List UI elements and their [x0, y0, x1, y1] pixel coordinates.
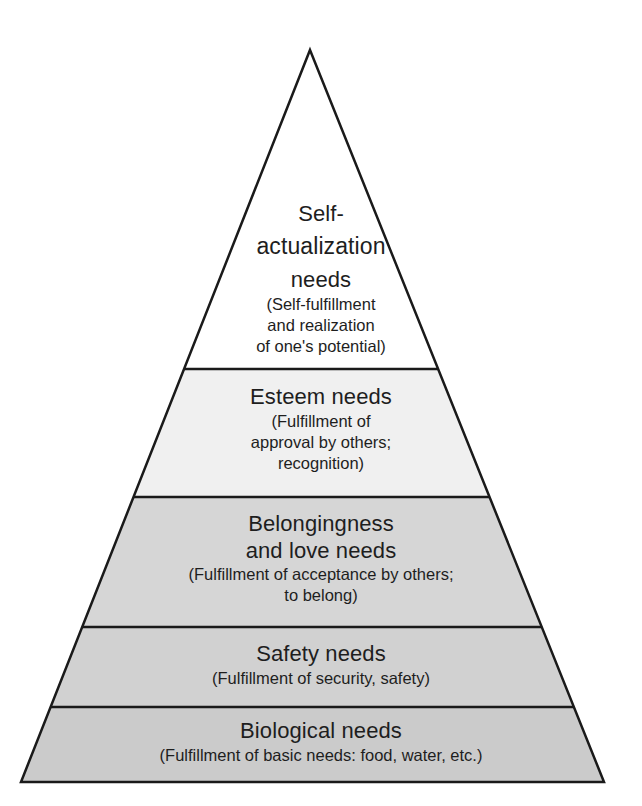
title-line: actualization — [0, 230, 642, 263]
subtitle-line: (Fulfillment of security, safety) — [0, 668, 642, 689]
level-biological: Biological needs (Fulfillment of basic n… — [0, 717, 642, 766]
level-safety: Safety needs (Fulfillment of security, s… — [0, 639, 642, 689]
subtitle-line: recognition) — [0, 453, 642, 474]
subtitle-line: (Fulfillment of — [0, 411, 642, 432]
level-subtitle: (Fulfillment of acceptance by others; to… — [0, 564, 642, 606]
level-title: Biological needs — [0, 717, 642, 745]
subtitle-line: (Self-fulfillment — [0, 294, 642, 315]
subtitle-line: (Fulfillment of acceptance by others; — [0, 564, 642, 585]
level-belongingness: Belongingness and love needs (Fulfillmen… — [0, 510, 642, 606]
subtitle-line: to belong) — [0, 585, 642, 606]
subtitle-line: approval by others; — [0, 432, 642, 453]
level-title: Safety needs — [0, 639, 642, 668]
level-subtitle: (Self-fulfillment and realization of one… — [0, 294, 642, 357]
title-line: and love needs — [0, 537, 642, 564]
title-line: Esteem needs — [0, 383, 642, 411]
level-esteem: Esteem needs (Fulfillment of approval by… — [0, 383, 642, 474]
level-self-actualization: Self- actualization needs (Self-fulfillm… — [0, 197, 642, 357]
level-title: Belongingness and love needs — [0, 510, 642, 564]
title-line: needs — [0, 263, 642, 296]
title-line: Self- — [0, 197, 642, 230]
title-line: Biological needs — [0, 717, 642, 745]
level-subtitle: (Fulfillment of approval by others; reco… — [0, 411, 642, 474]
subtitle-line: and realization — [0, 315, 642, 336]
subtitle-line: (Fulfillment of basic needs: food, water… — [0, 745, 642, 766]
level-subtitle: (Fulfillment of basic needs: food, water… — [0, 745, 642, 766]
level-subtitle: (Fulfillment of security, safety) — [0, 668, 642, 689]
title-line: Belongingness — [0, 510, 642, 537]
title-line: Safety needs — [0, 639, 642, 668]
subtitle-line: of one's potential) — [0, 336, 642, 357]
level-title: Self- actualization needs — [0, 197, 642, 296]
level-title: Esteem needs — [0, 383, 642, 411]
